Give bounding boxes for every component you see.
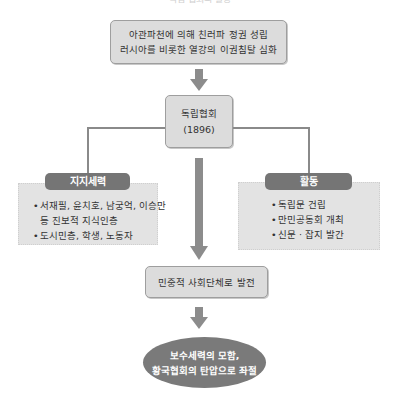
outcome-line-1: 보수세력의 모함,	[170, 348, 240, 363]
context-box: 아관파천에 의해 친러파 정권 성립 러시아를 비롯한 열강의 이권침탈 심화	[110, 20, 287, 64]
outcome-line-2: 황국협회의 탄압으로 좌절	[152, 363, 258, 378]
activities-header: 활동	[265, 173, 352, 190]
connector-left-vertical	[87, 127, 89, 173]
connector-left-horizontal	[87, 127, 165, 129]
activities-panel: •독립문 건립 •만민공동회 개최 •신문 · 잡지 발간	[238, 182, 380, 250]
down-arrow-icon	[190, 307, 208, 329]
development-box: 민중적 사회단체로 발전	[145, 266, 268, 298]
activity-item: •신문 · 잡지 발간	[271, 227, 379, 242]
down-arrow-icon	[190, 69, 208, 91]
support-item: •서재필, 윤치호, 남궁억, 이승만	[33, 198, 157, 213]
connector-right-horizontal	[233, 127, 309, 129]
independence-club-year: (1896)	[183, 122, 215, 138]
development-text: 민중적 사회단체로 발전	[158, 275, 254, 290]
activity-item: •독립문 건립	[271, 197, 379, 212]
independence-club-title: 독립협회	[181, 106, 217, 122]
support-item: •도시민층, 학생, 노동자	[33, 228, 157, 243]
outcome-ellipse: 보수세력의 모함, 황국협회의 탄압으로 좌절	[143, 337, 266, 388]
support-forces-header: 지지세력	[45, 173, 130, 190]
activity-item: •만민공동회 개최	[271, 212, 379, 227]
support-forces-panel: •서재필, 윤치호, 남궁억, 이승만 등 진보적 지식인층 •도시민층, 학생…	[18, 183, 158, 245]
independence-club-box: 독립협회 (1896)	[165, 95, 233, 148]
connector-right-vertical	[308, 127, 310, 173]
context-line-2: 러시아를 비롯한 열강의 이권침탈 심화	[120, 42, 276, 57]
cut-off-caption: 독립 협회의 활동	[160, 0, 240, 4]
long-down-arrow-icon	[190, 158, 208, 260]
support-item-continuation: 등 진보적 지식인층	[33, 213, 157, 228]
context-line-1: 아관파천에 의해 친러파 정권 성립	[129, 27, 267, 42]
